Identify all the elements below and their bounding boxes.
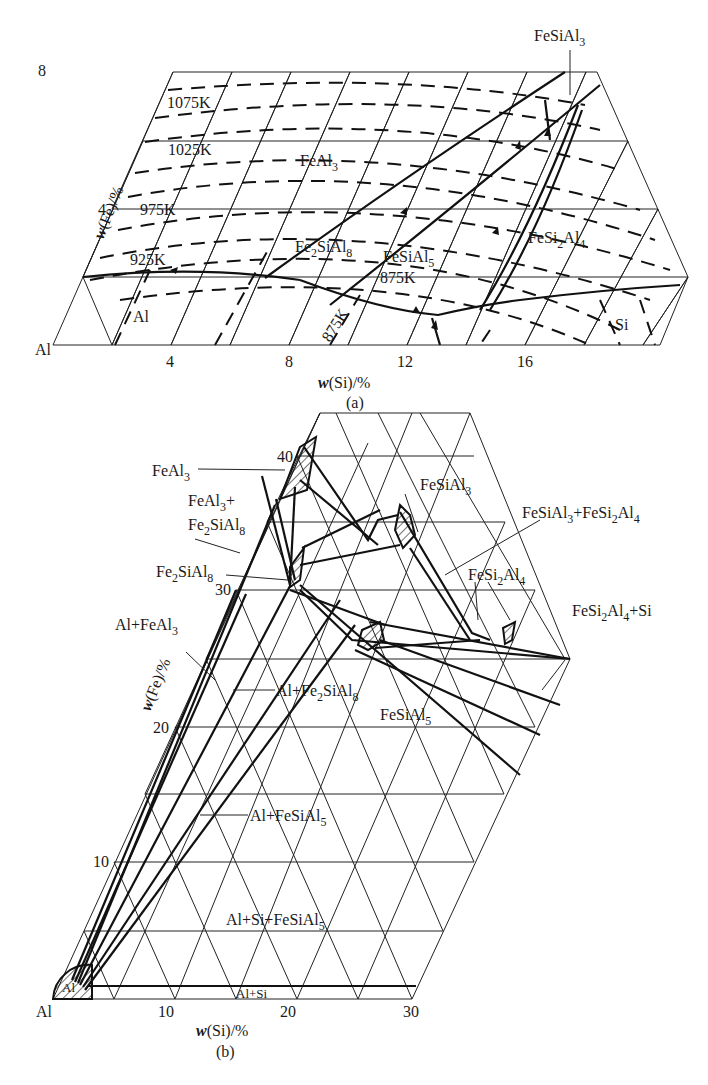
panel-a-label-si: Si <box>615 316 629 333</box>
panel-b-label-fesial3-fesi2al4: FeSiAl3+FeSi2Al4 <box>522 504 640 526</box>
isotherm-975k: 975K <box>140 201 176 218</box>
panel-a-label-fe2sial8: Fe2SiAl8 <box>295 238 352 260</box>
panel-b-y-tick-10: 10 <box>93 853 109 870</box>
panel-b-label-fesial3: FeSiAl3 <box>420 476 471 498</box>
isotherm-1025k: 1025K <box>168 141 212 158</box>
panel-b-y-tick-30: 30 <box>215 581 231 598</box>
panel-b-x-tick-30: 30 <box>403 1003 419 1020</box>
panel-b-label-fesi2al4-si: FeSi2Al4+Si <box>572 602 652 624</box>
panel-b-label-fesi2al4: FeSi2Al4 <box>468 566 525 588</box>
panel-b: 40 30 20 10 Al 10 20 30 w(Si)/% (b) w(Fe… <box>36 413 652 1061</box>
isotherm-925k: 925K <box>130 251 166 268</box>
panel-b-label-al-si-fesial5: Al+Si+FeSiAl5 <box>226 911 325 933</box>
panel-b-y-tick-20: 20 <box>153 719 169 736</box>
panel-b-label-fe2sial8: Fe2SiAl8 <box>156 563 213 585</box>
panel-b-label-feal3-fe2sial8-l1: FeAl3+ <box>188 492 235 514</box>
phase-diagram-figure: 8 4 Al 4 8 12 16 w(Si)/% (a) w(Fe)/% 107… <box>0 0 708 1085</box>
panel-a-label-fesi2al4: FeSi2Al4 <box>528 229 585 251</box>
region-fesial3 <box>395 505 415 548</box>
panel-b-label-feal3-fe2sial8-l2: Fe2SiAl8 <box>188 516 245 538</box>
panel-a-x-axis-title: w(Si)/% <box>318 374 370 392</box>
panel-b-y-axis-title: w(Fe)/% <box>137 656 174 714</box>
panel-b-origin-al: Al <box>36 1003 53 1020</box>
panel-b-label-al-fesial5: Al+FeSiAl5 <box>250 807 326 829</box>
panel-a-y-axis-title: w(Fe)/% <box>90 184 127 242</box>
panel-b-label-al-si: Al+Si <box>236 986 268 1001</box>
panel-a-label-fesial5: FeSiAl5 <box>383 248 434 270</box>
panel-a-x-tick-16: 16 <box>517 353 533 370</box>
panel-b-label-feal3: FeAl3 <box>152 462 190 484</box>
panel-a-label-al: Al <box>133 308 150 325</box>
panel-b-boundaries <box>72 447 570 990</box>
isotherm-1075k: 1075K <box>167 94 211 111</box>
panel-b-label-al-feal3: Al+FeAl3 <box>115 616 178 638</box>
panel-a-x-tick-4: 4 <box>166 353 174 370</box>
panel-b-label-al-fe2sial8: Al+Fe2SiAl8 <box>276 682 358 704</box>
panel-b-label-al: Al <box>62 980 75 995</box>
panel-a-x-tick-8: 8 <box>285 353 293 370</box>
panel-b-y-tick-40: 40 <box>277 448 293 465</box>
panel-a-label-fesial3: FeSiAl3 <box>534 27 585 49</box>
isotherm-875k: 875K <box>380 269 416 286</box>
isotherm-875k-rotated: 875K <box>318 305 351 345</box>
panel-a: 8 4 Al 4 8 12 16 w(Si)/% (a) w(Fe)/% 107… <box>35 27 688 412</box>
panel-b-x-tick-20: 20 <box>280 1003 296 1020</box>
panel-a-origin-al: Al <box>35 341 52 358</box>
panel-a-y-tick-8: 8 <box>38 62 46 79</box>
panel-b-x-tick-10: 10 <box>158 1003 174 1020</box>
panel-b-caption: (b) <box>216 1043 235 1061</box>
panel-b-x-axis-title: w(Si)/% <box>196 1022 248 1040</box>
panel-a-x-tick-12: 12 <box>397 353 413 370</box>
panel-b-label-fesial5: FeSiAl5 <box>380 706 431 728</box>
panel-a-caption: (a) <box>346 394 364 412</box>
panel-a-label-feal3: FeAl3 <box>300 152 338 174</box>
